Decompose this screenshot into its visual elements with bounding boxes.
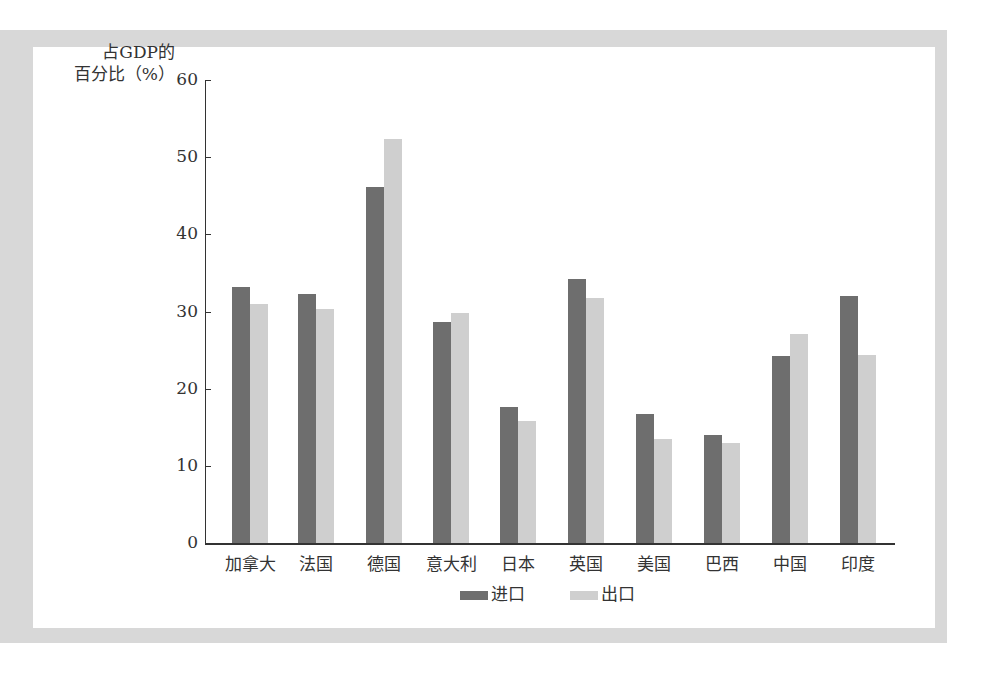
bar-export xyxy=(451,313,469,543)
bar-export xyxy=(790,334,808,543)
bar-import xyxy=(433,322,451,543)
bar-import xyxy=(500,407,518,543)
bar-import xyxy=(772,356,790,543)
bar-import xyxy=(568,279,586,543)
bar-import xyxy=(232,287,250,543)
bar-import xyxy=(840,296,858,543)
legend-swatch-import xyxy=(460,591,488,600)
y-tick-label: 40 xyxy=(150,224,198,242)
y-tick xyxy=(205,312,211,313)
x-axis xyxy=(205,543,895,545)
bar-export xyxy=(722,443,740,543)
bar-import xyxy=(366,187,384,543)
y-tick-label: 50 xyxy=(150,147,198,165)
y-tick xyxy=(205,80,211,81)
y-tick-label: 30 xyxy=(150,302,198,320)
legend-swatch-export xyxy=(570,591,598,600)
bar-export xyxy=(316,309,334,543)
y-tick xyxy=(205,389,211,390)
y-tick xyxy=(205,466,211,467)
y-tick xyxy=(205,234,211,235)
y-tick-label: 60 xyxy=(150,70,198,88)
bar-export xyxy=(384,139,402,543)
bar-import xyxy=(636,414,654,543)
legend-item-import: 进口 xyxy=(460,580,525,605)
legend-label-import: 进口 xyxy=(491,584,525,604)
y-tick-label: 0 xyxy=(150,533,198,551)
legend-item-export: 出口 xyxy=(570,580,635,605)
y-tick-label: 20 xyxy=(150,379,198,397)
bar-export xyxy=(250,304,268,543)
bar-export xyxy=(586,298,604,543)
legend-label-export: 出口 xyxy=(601,584,635,604)
y-tick xyxy=(205,157,211,158)
y-tick xyxy=(205,543,211,544)
bar-export xyxy=(858,355,876,543)
x-category-label: 印度 xyxy=(818,550,898,575)
bar-import xyxy=(298,294,316,543)
bar-import xyxy=(704,435,722,543)
bar-export xyxy=(654,439,672,543)
bar-export xyxy=(518,421,536,543)
y-tick-label: 10 xyxy=(150,456,198,474)
